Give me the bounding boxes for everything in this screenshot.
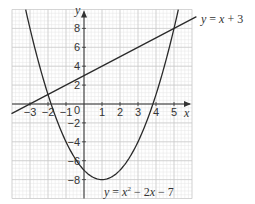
line-equation-label: y = x + 3 — [200, 12, 243, 26]
y-tick-label: 6 — [74, 41, 80, 53]
curves — [12, 10, 196, 180]
y-tick-label: 8 — [74, 22, 80, 34]
x-tick-label: 5 — [171, 106, 177, 118]
x-tick-label: −3 — [24, 106, 37, 118]
x-tick-label: 2 — [117, 106, 123, 118]
parabola-equation-label: y = x2 − 2x − 7 — [103, 185, 174, 199]
y-axis-arrow-icon — [81, 11, 87, 18]
y-tick-label: −8 — [67, 174, 80, 186]
axes — [12, 11, 191, 199]
origin-label: 0 — [74, 104, 80, 116]
x-tick-label: 4 — [153, 106, 159, 118]
y-tick-label: −2 — [67, 117, 80, 129]
x-tick-label: 1 — [99, 106, 105, 118]
y-tick-label: 4 — [74, 60, 80, 72]
x-tick-label: 3 — [135, 106, 141, 118]
x-axis-label: x — [183, 106, 190, 120]
y-axis-label: y — [74, 3, 81, 17]
function-graph: −3−2−1123458642−2−4−6−8 y x 0 y = x + 3 … — [0, 0, 255, 204]
y-tick-label: −4 — [67, 136, 80, 148]
